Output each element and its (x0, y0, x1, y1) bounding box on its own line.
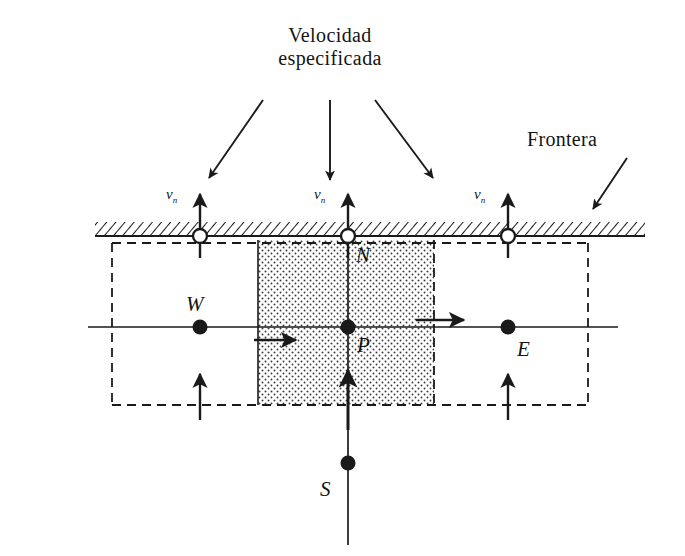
velocity-symbol: v (314, 186, 321, 202)
velocity-subscript: n (321, 195, 326, 205)
figure-canvas: Velocidad especificada Frontera vn vn vn… (0, 0, 685, 556)
node-dot-s (341, 456, 356, 471)
node-dot-w (193, 320, 208, 335)
velocity-symbol: v (166, 186, 173, 202)
node-dot-e (501, 320, 516, 335)
velocity-label-west: vn (166, 186, 177, 205)
node-label-s: S (320, 477, 331, 502)
frontera-label: Frontera (527, 128, 597, 151)
callout-arrows (209, 100, 627, 209)
node-label-p: P (357, 333, 370, 358)
velocity-subscript: n (481, 195, 486, 205)
node-label-w: W (186, 292, 204, 317)
diagram-svg (0, 0, 685, 556)
wall-hatching (95, 222, 645, 235)
boundary-wall (95, 222, 645, 236)
node-dot-p (341, 320, 356, 335)
callout-arrow-frontera (593, 158, 627, 209)
boundary-node-east (501, 229, 515, 243)
velocity-label-east: vn (474, 186, 485, 205)
callout-arrow-left (209, 100, 263, 178)
velocity-symbol: v (474, 186, 481, 202)
boundary-node-north (341, 229, 355, 243)
node-label-n: N (356, 243, 370, 268)
title-block: Velocidad especificada (190, 24, 470, 70)
node-label-e: E (517, 337, 530, 362)
callout-arrow-right (375, 100, 433, 178)
boundary-node-west (193, 229, 207, 243)
title-line-1: Velocidad (190, 24, 470, 47)
title-line-2: especificada (190, 47, 470, 70)
velocity-subscript: n (173, 195, 178, 205)
velocity-label-center: vn (314, 186, 325, 205)
